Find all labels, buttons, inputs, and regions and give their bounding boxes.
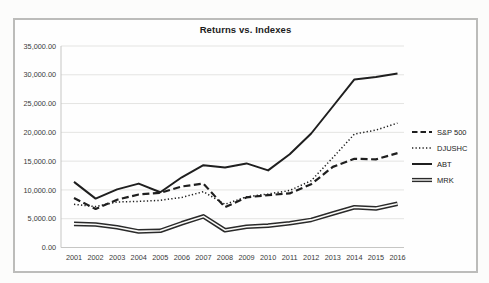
y-tick-label: 0.00 xyxy=(42,243,56,252)
x-tick-label: 2006 xyxy=(174,253,190,262)
x-tick-label: 2016 xyxy=(389,253,405,262)
x-axis-labels: 2001200220032004200520062007200820092010… xyxy=(66,253,406,262)
double-line-icon xyxy=(411,176,433,184)
y-tick-label: 25,000.00 xyxy=(24,99,56,108)
legend-label-abt: ABT xyxy=(437,160,452,169)
dashed-line-icon xyxy=(411,128,433,136)
y-tick-label: 30,000.00 xyxy=(24,70,56,79)
x-tick-label: 2014 xyxy=(346,253,362,262)
legend: S&P 500 DJUSHC ABT MRK xyxy=(411,126,467,186)
legend-label-djushc: DJUSHC xyxy=(437,144,467,153)
x-tick-label: 2005 xyxy=(152,253,168,262)
series-line-abt xyxy=(74,74,398,199)
y-tick-label: 5,000.00 xyxy=(28,214,56,223)
series-line-mrk xyxy=(74,204,398,232)
chart-frame: 0.005,000.0010,000.0015,000.0020,000.002… xyxy=(13,18,478,273)
y-tick-label: 35,000.00 xyxy=(24,42,56,51)
dotted-line-icon xyxy=(411,144,433,152)
x-tick-label: 2012 xyxy=(303,253,319,262)
screenshot-background: 0.005,000.0010,000.0015,000.0020,000.002… xyxy=(0,0,489,283)
x-tick-label: 2007 xyxy=(195,253,211,262)
plot-area: 0.005,000.0010,000.0015,000.0020,000.002… xyxy=(15,20,476,271)
legend-item-sp500: S&P 500 xyxy=(411,126,467,138)
x-tick-label: 2013 xyxy=(325,253,341,262)
x-tick-label: 2011 xyxy=(282,253,298,262)
legend-item-abt: ABT xyxy=(411,158,467,170)
x-tick-label: 2008 xyxy=(217,253,233,262)
x-tick-label: 2010 xyxy=(260,253,276,262)
x-tick-label: 2009 xyxy=(238,253,254,262)
chart-title: Returns vs. Indexes xyxy=(15,24,476,35)
legend-label-sp500: S&P 500 xyxy=(437,128,466,137)
x-tick-label: 2001 xyxy=(66,253,82,262)
legend-item-djushc: DJUSHC xyxy=(411,142,467,154)
x-tick-label: 2002 xyxy=(87,253,103,262)
x-tick-label: 2003 xyxy=(109,253,125,262)
y-tick-label: 20,000.00 xyxy=(24,128,56,137)
y-tick-label: 10,000.00 xyxy=(24,186,56,195)
x-tick-label: 2004 xyxy=(131,253,147,262)
y-tick-label: 15,000.00 xyxy=(24,157,56,166)
solid-line-icon xyxy=(411,160,433,168)
legend-label-mrk: MRK xyxy=(437,176,454,185)
legend-item-mrk: MRK xyxy=(411,174,467,186)
x-tick-label: 2015 xyxy=(368,253,384,262)
